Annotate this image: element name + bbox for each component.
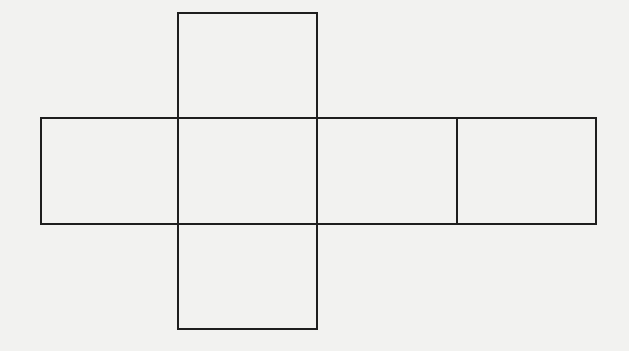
right-face [317, 118, 457, 224]
net-faces [41, 13, 596, 329]
left-face [41, 118, 178, 224]
prism-net-diagram [0, 0, 629, 351]
bottom-face [178, 224, 317, 329]
back-face [457, 118, 596, 224]
front-face [178, 118, 317, 224]
top-face [178, 13, 317, 118]
